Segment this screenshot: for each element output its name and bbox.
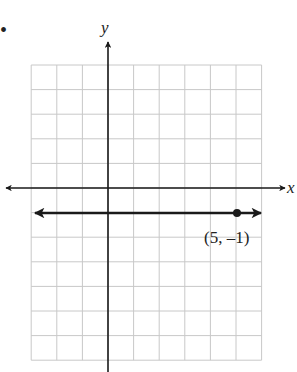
y-axis-label: y	[99, 18, 109, 37]
x-axis-label: x	[286, 178, 295, 197]
point-label: (5, –1)	[204, 228, 249, 247]
problem-bullet: •	[0, 19, 7, 41]
point-5-neg1	[233, 209, 241, 217]
coordinate-plane: • x y (5, –1)	[0, 0, 297, 372]
